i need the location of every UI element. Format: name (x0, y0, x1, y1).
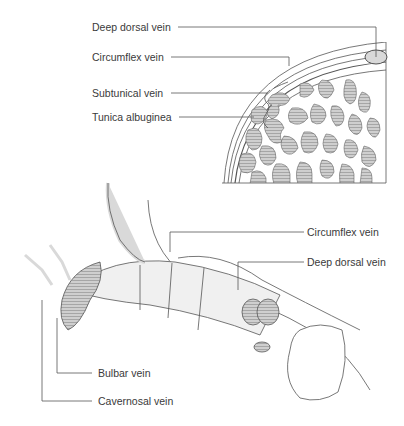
label-circumflex-vein-bottom: Circumflex vein (307, 226, 379, 238)
label-circumflex-vein-top: Circumflex vein (92, 51, 164, 63)
anatomy-diagram (0, 0, 404, 426)
label-bulbar-vein: Bulbar vein (98, 367, 151, 379)
label-subtunical-vein: Subtunical vein (92, 87, 163, 99)
label-cavernosal-vein: Cavernosal vein (98, 395, 173, 407)
label-deep-dorsal-vein-top: Deep dorsal vein (92, 21, 171, 33)
label-deep-dorsal-vein-bottom: Deep dorsal vein (307, 256, 386, 268)
longitudinal-view (25, 183, 370, 400)
label-tunica-albuginea: Tunica albuginea (92, 111, 172, 123)
cross-section-view (222, 42, 387, 184)
